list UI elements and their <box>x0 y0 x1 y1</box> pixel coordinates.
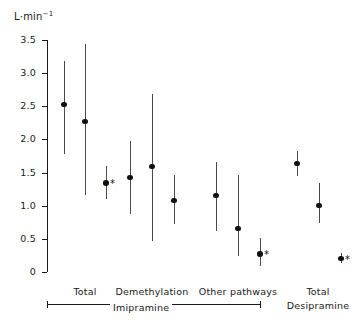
data-point-marker <box>82 119 87 124</box>
y-tick-mark <box>42 173 47 174</box>
data-point-marker <box>338 256 343 261</box>
error-bar <box>238 175 239 257</box>
y-tick-mark <box>42 239 47 240</box>
y-axis-unit-exponent: −1 <box>43 10 54 18</box>
y-tick-label: 2.5 <box>10 100 36 111</box>
bracket-label: Imipramine <box>110 302 172 313</box>
significance-star: * <box>110 181 115 187</box>
data-point-marker <box>257 251 262 256</box>
data-point-marker <box>149 164 154 169</box>
y-tick-mark <box>42 40 47 41</box>
desipramine-group-label: Desipramine <box>258 300 355 311</box>
data-point-marker <box>213 193 218 198</box>
data-point-marker <box>171 198 176 203</box>
category-label-total-desipramine: Total <box>258 286 355 297</box>
significance-star: * <box>264 252 269 258</box>
y-tick-label: 1.5 <box>10 167 36 178</box>
data-point-marker <box>103 180 108 185</box>
data-point-marker <box>235 226 240 231</box>
y-tick-mark <box>42 73 47 74</box>
y-tick-mark <box>42 106 47 107</box>
y-tick-mark <box>42 139 47 140</box>
y-axis-line <box>47 40 48 272</box>
y-tick-label: 1.0 <box>10 200 36 211</box>
data-point-marker <box>127 175 132 180</box>
y-tick-mark <box>42 272 47 273</box>
data-point-marker <box>61 102 66 107</box>
error-bar <box>64 61 65 154</box>
y-tick-label: 3.5 <box>10 34 36 45</box>
y-tick-label: 3.0 <box>10 67 36 78</box>
y-tick-label: 2.0 <box>10 133 36 144</box>
significance-star: * <box>345 257 350 263</box>
y-axis-unit-label: L·min−1 <box>14 10 53 22</box>
y-axis-unit-text: L·min <box>14 11 43 22</box>
y-tick-label: 0 <box>10 266 36 277</box>
y-tick-mark <box>42 206 47 207</box>
data-point-marker <box>294 161 299 166</box>
data-point-marker <box>316 203 321 208</box>
y-tick-label: 0.5 <box>10 233 36 244</box>
